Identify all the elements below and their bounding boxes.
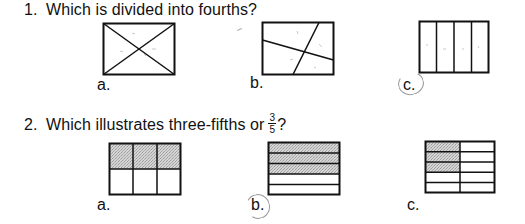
q1-option-b-figure[interactable] <box>262 22 334 75</box>
question-2-number: 2. <box>24 116 46 134</box>
q1-option-c-figure[interactable] <box>419 21 489 73</box>
q2-option-a-label[interactable]: a. <box>97 197 110 213</box>
question-2-question-mark: ? <box>277 116 286 133</box>
stray-pencil-mark <box>237 28 242 31</box>
q1-option-a-label[interactable]: a. <box>97 77 110 93</box>
question-1: 1.Which is divided into fourths? <box>24 1 257 19</box>
question-1-number: 1. <box>24 1 46 19</box>
question-2-text: Which illustrates three-fifths or <box>46 116 264 133</box>
question-1-text: Which is divided into fourths? <box>46 1 257 18</box>
q1-option-c-label[interactable]: c. <box>403 77 415 93</box>
fraction-three-fifths: 35 <box>268 113 276 134</box>
q2-option-c-label[interactable]: c. <box>407 197 419 213</box>
fraction-numerator: 3 <box>268 113 276 124</box>
q2-option-a-figure[interactable] <box>109 143 181 195</box>
q2-option-b-figure[interactable] <box>268 142 340 195</box>
q2-option-b-label[interactable]: b. <box>251 197 264 213</box>
fraction-denominator: 5 <box>268 124 276 134</box>
question-2: 2.Which illustrates three-fifths or35? <box>24 115 286 136</box>
q1-option-a-figure[interactable] <box>103 23 175 75</box>
q1-option-b-label[interactable]: b. <box>250 75 263 91</box>
q2-option-c-figure[interactable] <box>425 141 495 193</box>
